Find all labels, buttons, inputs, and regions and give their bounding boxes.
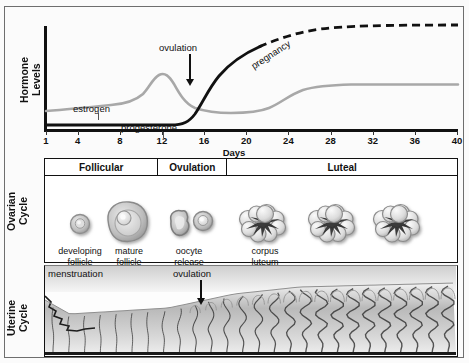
uterine-ovulation-label: ovulation bbox=[173, 268, 211, 279]
uterine-cycle-side-label: Uterine Cycle bbox=[6, 292, 29, 344]
hormone-levels-chart: Hormone Levels 1481216202428323640 Days … bbox=[11, 12, 458, 148]
chart-ovulation-arrow-icon bbox=[189, 54, 191, 80]
endometrium-illustration bbox=[45, 266, 456, 355]
hormone-curves bbox=[11, 12, 458, 137]
x-axis-title: Days bbox=[223, 147, 246, 158]
mature-follicle-caption: mature follicle bbox=[115, 246, 143, 267]
myometrium-base bbox=[45, 352, 456, 355]
ovarian-phase-follicular: Follicular bbox=[45, 159, 157, 175]
corpus-luteum-caption: corpus luteum bbox=[251, 246, 278, 267]
progesterone-leader-line bbox=[163, 132, 164, 138]
estrogen-leader-line bbox=[98, 113, 99, 120]
menstrual-cycle-figure: Hormone Levels 1481216202428323640 Days … bbox=[0, 0, 469, 363]
developing-follicle-caption: developing follicle bbox=[58, 246, 102, 267]
ovarian-cycle-side-label: Ovarian Cycle bbox=[6, 182, 29, 240]
menstruation-label: menstruation bbox=[48, 268, 103, 279]
oocyte-release-caption: oocyte release bbox=[174, 246, 204, 267]
corpus-luteum-3-illustration bbox=[374, 205, 420, 243]
chart-ovulation-label: ovulation bbox=[159, 42, 197, 53]
uterine-cycle-panel: menstruation ovulation bbox=[11, 265, 458, 357]
oocyte-release-illustration bbox=[171, 210, 213, 235]
ovarian-cycle-panel: FollicularOvulationLuteal developing fol… bbox=[11, 158, 458, 263]
ovarian-phase-ovulation: Ovulation bbox=[157, 159, 226, 175]
uterine-cycle-box: menstruation ovulation bbox=[44, 265, 458, 357]
ovarian-phase-bar: FollicularOvulationLuteal bbox=[45, 159, 457, 176]
uterine-ovulation-arrow-icon bbox=[200, 280, 202, 299]
mature-follicle-illustration bbox=[108, 202, 147, 242]
ovarian-phase-luteal: Luteal bbox=[226, 159, 457, 175]
corpus-luteum-illustration bbox=[240, 205, 286, 243]
estrogen-label: estrogen bbox=[73, 103, 110, 114]
ovarian-cycle-box: FollicularOvulationLuteal developing fol… bbox=[44, 158, 458, 263]
corpus-luteum-2-illustration bbox=[309, 205, 355, 243]
developing-follicle-illustration bbox=[71, 215, 90, 234]
progesterone-label: progesterone bbox=[121, 122, 177, 133]
